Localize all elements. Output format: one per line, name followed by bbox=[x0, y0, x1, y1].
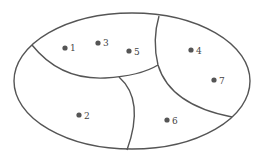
point-label: 4 bbox=[196, 46, 202, 56]
boundary-middle bbox=[119, 77, 134, 150]
point-label: 5 bbox=[134, 47, 140, 57]
point-1: 1 bbox=[62, 43, 75, 53]
region-diagram: 1 3 5 4 7 2 6 bbox=[0, 0, 263, 155]
point-4: 4 bbox=[188, 46, 202, 56]
point-label: 2 bbox=[84, 111, 90, 121]
boundary-right bbox=[155, 16, 232, 117]
point-5: 5 bbox=[126, 47, 140, 57]
point-label: 3 bbox=[103, 38, 109, 48]
point-2: 2 bbox=[76, 111, 89, 121]
point-3: 3 bbox=[95, 38, 109, 48]
point-label: 6 bbox=[172, 116, 178, 126]
point-6: 6 bbox=[164, 116, 178, 126]
point-label: 7 bbox=[219, 76, 225, 86]
point-label: 1 bbox=[70, 43, 76, 53]
diagram-canvas: 1 3 5 4 7 2 6 bbox=[0, 0, 263, 155]
point-7: 7 bbox=[211, 76, 225, 86]
